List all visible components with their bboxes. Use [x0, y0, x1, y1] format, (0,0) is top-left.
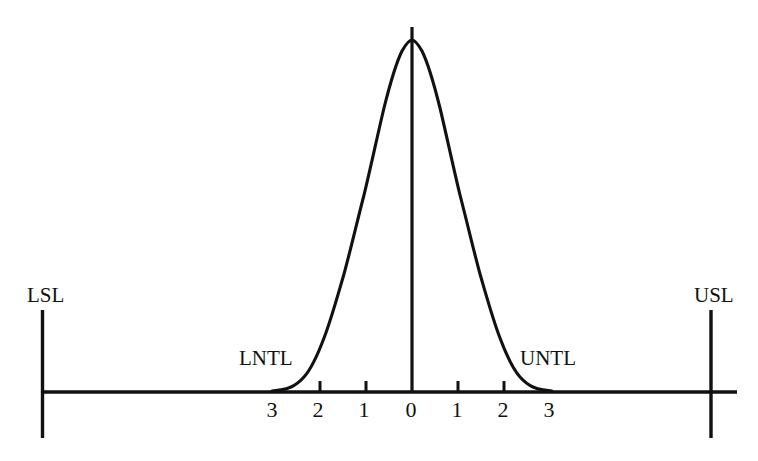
untl-label: UNTL	[520, 346, 576, 370]
tick-label-plus-2: 2	[498, 397, 509, 422]
tick-label-minus-2: 2	[313, 397, 324, 422]
tick-label-plus-3: 3	[544, 397, 555, 422]
usl-label: USL	[694, 283, 734, 307]
figure-canvas: LSL USL LNTL UNTL 3 2 1 0 1 2 3	[0, 0, 758, 461]
tick-label-minus-3: 3	[267, 397, 278, 422]
tick-label-minus-1: 1	[359, 397, 370, 422]
tick-label-zero: 0	[406, 397, 417, 422]
lntl-label: LNTL	[239, 346, 293, 370]
tick-label-plus-1: 1	[452, 397, 463, 422]
lsl-label: LSL	[27, 283, 64, 307]
process-capability-figure: LSL USL LNTL UNTL 3 2 1 0 1 2 3	[0, 0, 758, 461]
